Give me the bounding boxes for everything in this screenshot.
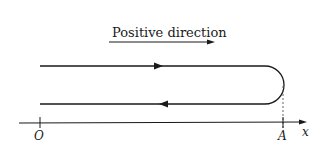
motion-diagram: Positive direction x O A [0,0,333,158]
forward-arrow-icon [154,63,163,70]
direction-label: Positive direction [112,25,227,40]
backward-arrow-icon [159,101,168,108]
origin-label: O [34,129,44,143]
motion-path [40,63,284,108]
point-a-label: A [277,129,287,143]
axis-label-x: x [302,125,309,139]
positive-direction-arrow [109,40,215,45]
x-axis [19,117,307,128]
